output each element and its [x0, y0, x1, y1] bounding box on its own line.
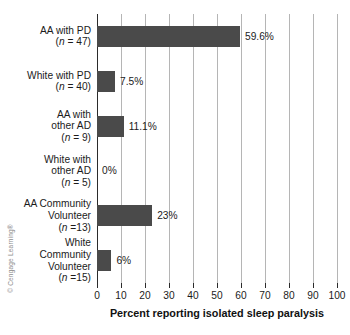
x-axis-tick-labels: 0102030405060708090100	[97, 290, 337, 304]
plot-area: 59.6%7.5%11.1%0%23%6%	[97, 14, 337, 283]
bar-chart-figure: © Cengage Learning® AA with PD(n = 47)Wh…	[0, 0, 350, 335]
x-axis-tick	[313, 283, 314, 288]
category-label: WhiteCommunityVolunteer(n =15)	[0, 237, 91, 283]
x-axis-tick-label: 100	[317, 290, 350, 301]
bar	[97, 250, 111, 271]
gridline	[169, 14, 170, 283]
category-label-line: AA with	[0, 109, 91, 121]
category-label-line: other AD	[0, 120, 91, 132]
category-label-line: White with PD	[0, 70, 91, 82]
category-label-line: (n = 47)	[0, 36, 91, 48]
bar-value-label: 59.6%	[245, 26, 274, 47]
bar-value-label: 0%	[102, 160, 117, 181]
x-axis-ticks	[97, 283, 337, 290]
bar	[97, 116, 124, 137]
category-label-line: AA with PD	[0, 25, 91, 37]
x-axis-tick	[145, 283, 146, 288]
category-axis-labels: AA with PD(n = 47)White with PD(n = 40)A…	[0, 14, 94, 283]
category-label: White with PD(n = 40)	[0, 70, 91, 93]
category-label-line: other AD	[0, 165, 91, 177]
x-axis-tick	[217, 283, 218, 288]
gridline	[193, 14, 194, 283]
category-label-line: White with	[0, 154, 91, 166]
x-axis-tick	[97, 283, 98, 288]
gridline	[241, 14, 242, 283]
x-axis-tick	[193, 283, 194, 288]
bar-value-label: 7.5%	[120, 71, 143, 92]
category-label-line: (n = 40)	[0, 81, 91, 93]
category-label: AA with PD(n = 47)	[0, 25, 91, 48]
category-label-line: White	[0, 237, 91, 249]
x-axis-tick	[337, 283, 338, 288]
category-label-line: AA Community	[0, 198, 91, 210]
bar	[97, 26, 240, 47]
gridline	[265, 14, 266, 283]
gridline	[337, 14, 338, 283]
gridline	[145, 14, 146, 283]
bar-value-label: 6%	[116, 250, 131, 271]
bar	[97, 205, 152, 226]
x-axis-tick	[169, 283, 170, 288]
category-label-line: (n =13)	[0, 222, 91, 234]
category-label: AA CommunityVolunteer(n =13)	[0, 198, 91, 233]
category-label-line: Volunteer	[0, 261, 91, 273]
bar-value-label: 11.1%	[129, 116, 157, 137]
category-label-line: (n = 5)	[0, 177, 91, 189]
gridline	[289, 14, 290, 283]
x-axis-tick	[289, 283, 290, 288]
bar-value-label: 23%	[157, 205, 177, 226]
x-axis-title: Percent reporting isolated sleep paralys…	[97, 307, 337, 319]
bar	[97, 71, 115, 92]
x-axis-tick	[265, 283, 266, 288]
gridline	[217, 14, 218, 283]
gridline	[121, 14, 122, 283]
category-label: AA withother AD(n = 9)	[0, 109, 91, 144]
x-axis-tick	[241, 283, 242, 288]
category-label-line: (n = 9)	[0, 132, 91, 144]
category-label-line: Community	[0, 249, 91, 261]
y-axis-line	[97, 14, 98, 283]
x-axis-tick	[121, 283, 122, 288]
category-label-line: Volunteer	[0, 210, 91, 222]
category-label: White withother AD(n = 5)	[0, 154, 91, 189]
category-label-line: (n =15)	[0, 272, 91, 284]
gridline	[313, 14, 314, 283]
